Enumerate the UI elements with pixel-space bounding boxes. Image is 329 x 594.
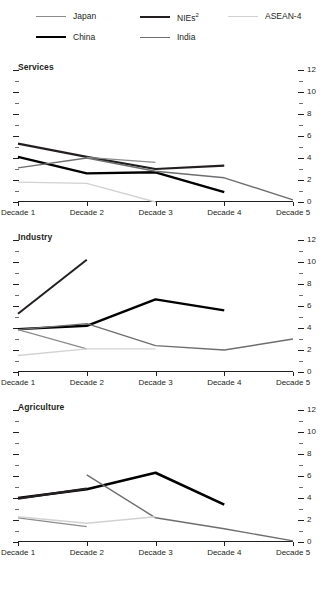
y-tick-right-agriculture-0 — [298, 542, 304, 543]
x-axis-label-services-5: Decade 5 — [276, 208, 310, 217]
y-axis-label-agriculture-12: 12 — [307, 406, 316, 414]
y-axis-label-agriculture-0: 0 — [307, 538, 311, 546]
y-minor-tick-right-services-7 — [299, 125, 303, 126]
x-tick-agriculture-3 — [156, 542, 157, 546]
y-axis-label-industry-12: 12 — [307, 236, 316, 244]
series-line-agriculture-india — [87, 475, 293, 541]
x-tick-industry-2 — [87, 372, 88, 376]
legend-label-nies: NIEs2 — [177, 12, 199, 22]
y-tick-right-industry-12 — [298, 240, 304, 241]
legend-swatch-asean4 — [228, 16, 258, 17]
y-axis-label-industry-2: 2 — [307, 346, 311, 354]
y-minor-tick-right-agriculture-1 — [299, 531, 303, 532]
chart-panel-industry: Industry024681012Decade 1Decade 2Decade … — [0, 232, 329, 392]
y-tick-right-agriculture-2 — [298, 520, 304, 521]
x-tick-agriculture-5 — [293, 542, 294, 546]
y-axis-label-services-4: 4 — [307, 154, 311, 162]
x-axis-label-industry-3: Decade 3 — [138, 378, 172, 387]
series-line-agriculture-china — [18, 473, 224, 505]
y-axis-label-agriculture-6: 6 — [307, 472, 311, 480]
y-tick-right-industry-0 — [298, 372, 304, 373]
legend-item-japan[interactable]: Japan — [36, 12, 96, 21]
y-axis-label-agriculture-2: 2 — [307, 516, 311, 524]
plot-area-agriculture: 024681012Decade 1Decade 2Decade 3Decade … — [18, 410, 293, 542]
y-axis-label-services-6: 6 — [307, 132, 311, 140]
legend-label-superscript-nies: 2 — [195, 12, 198, 18]
y-tick-right-industry-6 — [298, 306, 304, 307]
x-tick-services-4 — [224, 202, 225, 206]
series-line-industry-asean-4 — [18, 349, 156, 356]
legend-swatch-nies — [140, 16, 170, 18]
legend-item-asean4[interactable]: ASEAN-4 — [228, 12, 301, 21]
y-minor-tick-right-agriculture-9 — [299, 443, 303, 444]
series-layer-industry — [18, 240, 293, 372]
x-axis-label-services-3: Decade 3 — [138, 208, 172, 217]
x-axis-label-industry-2: Decade 2 — [70, 378, 104, 387]
y-tick-right-services-4 — [298, 158, 304, 159]
y-minor-tick-right-industry-5 — [299, 317, 303, 318]
legend-swatch-japan — [36, 16, 66, 17]
y-minor-tick-right-services-1 — [299, 191, 303, 192]
y-axis-label-agriculture-10: 10 — [307, 428, 316, 436]
y-minor-tick-right-services-3 — [299, 169, 303, 170]
y-tick-right-industry-2 — [298, 350, 304, 351]
y-tick-right-agriculture-4 — [298, 498, 304, 499]
y-minor-tick-right-industry-7 — [299, 295, 303, 296]
x-axis-label-services-4: Decade 4 — [207, 208, 241, 217]
series-line-agriculture-nies — [18, 489, 87, 499]
y-tick-right-services-12 — [298, 70, 304, 71]
series-layer-agriculture — [18, 410, 293, 542]
y-tick-right-agriculture-10 — [298, 432, 304, 433]
y-tick-right-services-2 — [298, 180, 304, 181]
x-axis-label-agriculture-1: Decade 1 — [1, 548, 35, 557]
x-tick-industry-4 — [224, 372, 225, 376]
x-tick-agriculture-1 — [18, 542, 19, 546]
x-tick-industry-1 — [18, 372, 19, 376]
legend-label-india: India — [177, 33, 195, 42]
y-minor-tick-right-industry-3 — [299, 339, 303, 340]
x-axis-label-services-1: Decade 1 — [1, 208, 35, 217]
y-tick-right-services-10 — [298, 92, 304, 93]
y-axis-label-services-8: 8 — [307, 110, 311, 118]
y-axis-label-industry-4: 4 — [307, 324, 311, 332]
legend-item-india[interactable]: India — [140, 33, 195, 42]
y-minor-tick-right-agriculture-3 — [299, 509, 303, 510]
y-axis-label-agriculture-8: 8 — [307, 450, 311, 458]
y-tick-right-agriculture-6 — [298, 476, 304, 477]
legend-label-asean4: ASEAN-4 — [265, 12, 301, 21]
y-axis-label-services-2: 2 — [307, 176, 311, 184]
y-minor-tick-right-agriculture-5 — [299, 487, 303, 488]
x-axis-label-agriculture-3: Decade 3 — [138, 548, 172, 557]
x-tick-services-3 — [156, 202, 157, 206]
legend-item-nies[interactable]: NIEs2 — [140, 12, 199, 22]
y-axis-label-industry-6: 6 — [307, 302, 311, 310]
legend-swatch-india — [140, 37, 170, 38]
y-minor-tick-right-services-9 — [299, 103, 303, 104]
plot-area-industry: 024681012Decade 1Decade 2Decade 3Decade … — [18, 240, 293, 372]
series-line-services-asean-4 — [18, 182, 156, 202]
y-axis-label-services-12: 12 — [307, 66, 316, 74]
chart-panel-agriculture: Agriculture024681012Decade 1Decade 2Deca… — [0, 402, 329, 562]
legend-label-china: China — [73, 33, 95, 42]
x-axis-label-industry-4: Decade 4 — [207, 378, 241, 387]
x-tick-agriculture-4 — [224, 542, 225, 546]
y-minor-tick-right-services-5 — [299, 147, 303, 148]
y-axis-label-industry-0: 0 — [307, 368, 311, 376]
series-line-services-india — [18, 158, 293, 200]
x-axis-label-industry-1: Decade 1 — [1, 378, 35, 387]
x-tick-agriculture-2 — [87, 542, 88, 546]
y-tick-right-agriculture-8 — [298, 454, 304, 455]
y-tick-right-industry-8 — [298, 284, 304, 285]
chart-panel-services: Services024681012Decade 1Decade 2Decade … — [0, 62, 329, 222]
x-axis-label-industry-5: Decade 5 — [276, 378, 310, 387]
y-axis-label-agriculture-4: 4 — [307, 494, 311, 502]
x-tick-industry-3 — [156, 372, 157, 376]
series-line-industry-china — [18, 299, 224, 329]
x-tick-industry-5 — [293, 372, 294, 376]
legend-label-japan: Japan — [73, 12, 96, 21]
plot-area-services: 024681012Decade 1Decade 2Decade 3Decade … — [18, 70, 293, 202]
x-axis-label-agriculture-4: Decade 4 — [207, 548, 241, 557]
chart-legend: JapanNIEs2ASEAN-4ChinaIndia — [0, 12, 329, 58]
x-axis-label-agriculture-2: Decade 2 — [70, 548, 104, 557]
legend-item-china[interactable]: China — [36, 33, 95, 42]
